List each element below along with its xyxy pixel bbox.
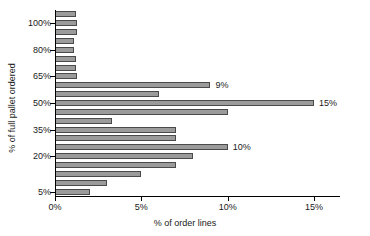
bar <box>55 135 176 141</box>
bar <box>55 153 193 159</box>
y-axis-tick-label: 80% <box>33 45 51 54</box>
bar <box>55 109 228 115</box>
bar <box>55 118 112 124</box>
plot-area: 9%15%10% <box>55 10 340 196</box>
bar <box>55 127 176 133</box>
x-axis-tick-label: 15% <box>305 203 323 212</box>
bar <box>55 162 176 168</box>
bar <box>55 82 210 88</box>
x-axis-tick-labels: 0%5%10%15% <box>55 196 345 216</box>
bar-chart: 9%15%10% 5%20%35%50%65%80%100% 0%5%10%15… <box>0 0 370 236</box>
bar <box>55 144 228 150</box>
y-axis-tick-label: 65% <box>33 72 51 81</box>
bar <box>55 73 77 79</box>
bar <box>55 189 90 195</box>
x-axis-tick-label: 10% <box>219 203 237 212</box>
bar <box>55 29 77 35</box>
x-axis-title: % of order lines <box>0 218 370 228</box>
bar <box>55 20 77 26</box>
bar <box>55 91 159 97</box>
y-axis-tick-label: 20% <box>33 152 51 161</box>
bar <box>55 65 76 71</box>
bar <box>55 56 76 62</box>
y-axis-tick-label: 5% <box>38 187 51 196</box>
bar <box>55 100 314 106</box>
bar <box>55 38 74 44</box>
bar <box>55 180 107 186</box>
x-axis-tick <box>55 196 56 201</box>
bar <box>55 11 76 17</box>
x-axis-tick <box>141 196 142 201</box>
bar-value-label: 10% <box>233 143 251 152</box>
x-axis-tick <box>314 196 315 201</box>
bar-value-label: 9% <box>215 81 228 90</box>
bar-value-label: 15% <box>319 99 337 108</box>
y-axis-tick-label: 100% <box>28 19 51 28</box>
bar <box>55 47 74 53</box>
y-axis-line <box>55 10 56 196</box>
y-axis-tick-label: 50% <box>33 99 51 108</box>
bar <box>55 171 141 177</box>
x-axis-tick-label: 0% <box>48 203 61 212</box>
x-axis-tick-label: 5% <box>135 203 148 212</box>
x-axis-tick <box>228 196 229 201</box>
y-axis-tick-label: 35% <box>33 125 51 134</box>
y-axis-title: % of full pallet ordered <box>7 43 17 173</box>
